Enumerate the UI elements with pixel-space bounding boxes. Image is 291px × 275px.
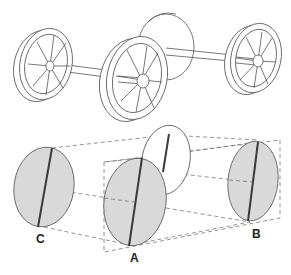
right-wheel-hub: [253, 55, 263, 67]
disc-b-label: B: [252, 228, 261, 240]
left-wheel-hub: [46, 61, 54, 71]
disc-b: [224, 139, 282, 224]
disc-a-label: A: [130, 252, 139, 264]
disc-c: [9, 143, 80, 231]
axle-projection-figure: C A B: [0, 0, 291, 275]
right-wheel: [218, 19, 287, 100]
middle-wheel-hub: [137, 74, 149, 88]
bottom-panel-projection: [9, 121, 282, 252]
disc-c-label: C: [36, 233, 45, 245]
top-panel-axle-assembly: [7, 13, 288, 127]
left-wheel: [7, 23, 79, 106]
